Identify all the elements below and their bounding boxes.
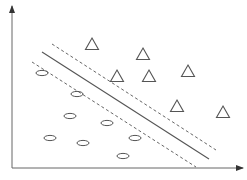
ellipse-icon — [36, 70, 48, 75]
triangle-icon — [217, 106, 230, 118]
triangle-icon — [137, 48, 150, 60]
lower-margin-line — [32, 62, 196, 167]
triangle-icon — [171, 100, 184, 112]
ellipse-icon — [101, 120, 113, 125]
ellipse-icon — [129, 135, 141, 140]
triangle-icon — [182, 65, 195, 77]
ellipse-icon — [64, 113, 76, 118]
ellipse-icon — [117, 153, 129, 158]
class-triangles — [86, 38, 230, 118]
triangle-icon — [111, 70, 124, 82]
axes — [12, 6, 243, 168]
ellipse-icon — [71, 91, 83, 96]
svm-diagram — [0, 0, 247, 180]
class-ellipses — [36, 70, 141, 158]
hyperplane-line — [42, 52, 209, 159]
separating-lines — [32, 44, 216, 167]
ellipse-icon — [44, 135, 56, 140]
triangle-icon — [86, 38, 99, 50]
triangle-icon — [143, 70, 156, 82]
ellipse-icon — [77, 140, 89, 145]
